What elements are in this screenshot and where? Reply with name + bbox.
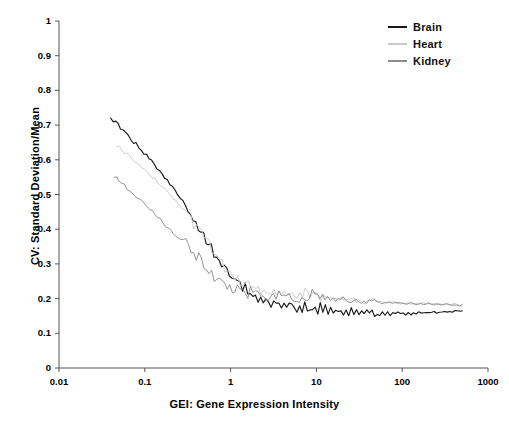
legend-swatch-icon [388, 43, 407, 45]
y-tick-label: 0.4 [11, 223, 51, 234]
y-tick-label: 1 [11, 15, 51, 26]
x-tick-label: 0.1 [123, 376, 167, 387]
chart-legend: BrainHeartKidney [388, 18, 504, 69]
series-line-heart [117, 146, 463, 306]
legend-label: Brain [413, 21, 442, 33]
y-tick-label: 0.1 [11, 327, 51, 338]
legend-label: Kidney [413, 55, 451, 67]
y-tick-label: 0.9 [11, 50, 51, 61]
chart-figure: CV: Standard Deviation/Mean GEI: Gene Ex… [0, 0, 509, 429]
legend-swatch-icon [388, 26, 407, 28]
y-tick-label: 0.2 [11, 293, 51, 304]
x-tick-label: 10 [294, 376, 338, 387]
x-tick-label: 1000 [466, 376, 509, 387]
legend-item-brain[interactable]: Brain [388, 18, 504, 35]
legend-item-kidney[interactable]: Kidney [388, 52, 504, 69]
y-tick-label: 0.7 [11, 119, 51, 130]
legend-label: Heart [413, 38, 442, 50]
y-tick-label: 0.3 [11, 258, 51, 269]
y-tick-label: 0.8 [11, 84, 51, 95]
y-tick-label: 0.6 [11, 154, 51, 165]
y-tick-label: 0.5 [11, 189, 51, 200]
x-tick-label: 100 [380, 376, 424, 387]
x-tick-label: 0.01 [37, 376, 81, 387]
x-axis-title: GEI: Gene Expression Intensity [0, 398, 509, 410]
legend-swatch-icon [388, 60, 407, 62]
series-line-brain [111, 118, 463, 316]
axis-spines [59, 21, 488, 368]
legend-item-heart[interactable]: Heart [388, 35, 504, 52]
series-line-kidney [114, 177, 462, 306]
x-tick-label: 1 [209, 376, 253, 387]
y-tick-label: 0 [11, 362, 51, 373]
